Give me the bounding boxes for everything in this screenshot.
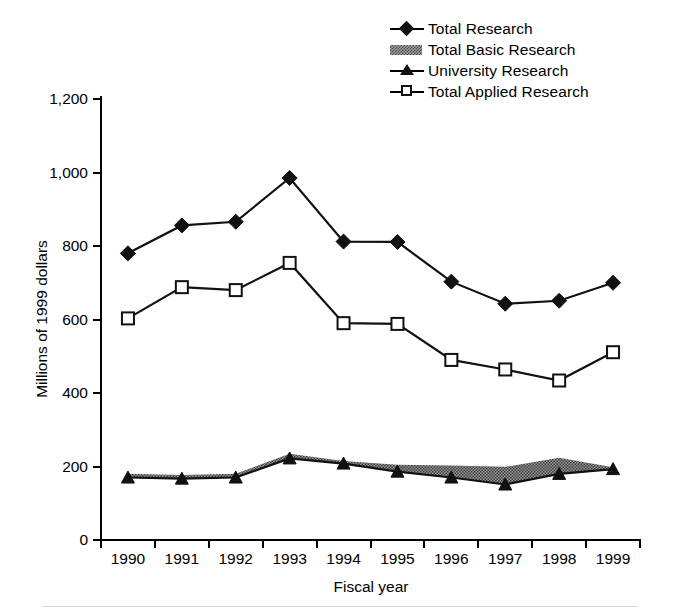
series-line [128,263,613,381]
series-total-applied-research [122,257,619,387]
chart-figure: Total Research Total Basic Research Univ… [0,0,673,616]
data-point-diamond [552,293,567,308]
data-point-square [230,284,242,296]
data-point-diamond [444,274,459,289]
data-point-square [445,354,457,366]
data-point-square [176,281,188,293]
series-area-total-basic-research [128,454,613,485]
data-point-diamond [174,218,189,233]
data-point-square [553,375,565,387]
series-total-research [120,171,620,312]
caption-divider [42,606,638,607]
chart-series-layer [0,0,673,616]
data-point-square [499,363,511,375]
data-point-diamond [120,246,135,261]
data-point-square [284,257,296,269]
data-point-square [607,346,619,358]
series-line [128,178,613,304]
data-point-square [391,318,403,330]
data-point-square [122,312,134,324]
data-point-diamond [390,234,405,249]
data-point-diamond [498,296,513,311]
data-point-diamond [606,275,621,290]
data-point-square [338,317,350,329]
